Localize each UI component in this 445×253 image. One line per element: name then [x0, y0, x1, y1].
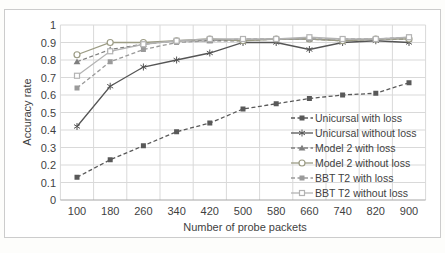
chart-frame-border [5, 10, 441, 238]
open-square-marker [407, 35, 412, 40]
x-tick-label: 660 [300, 205, 318, 217]
x-tick-label: 820 [367, 205, 385, 217]
x-tick-label: 580 [267, 205, 285, 217]
square-marker [141, 47, 146, 52]
y-tick-label: 0.9 [41, 37, 56, 49]
square-marker [307, 96, 312, 101]
legend-label: Model 2 without loss [315, 157, 410, 169]
x-tick-label: 900 [400, 205, 418, 217]
square-marker [300, 116, 305, 121]
open-square-marker [274, 37, 279, 42]
x-tick-label: 340 [167, 205, 185, 217]
open-circle-marker [299, 160, 305, 166]
open-square-marker [108, 49, 113, 54]
square-marker [108, 59, 113, 64]
x-tick-label: 420 [201, 205, 219, 217]
legend-label: Model 2 with loss [315, 142, 396, 154]
open-square-marker [75, 73, 80, 78]
square-marker [174, 129, 179, 134]
open-square-marker [340, 37, 345, 42]
square-marker [75, 175, 80, 180]
open-circle-marker [107, 40, 113, 46]
open-square-marker [174, 38, 179, 43]
y-tick-label: 0.2 [41, 159, 56, 171]
y-tick-label: 0.1 [41, 177, 56, 189]
legend-label: BBT T2 without loss [315, 187, 408, 199]
x-tick-label: 500 [234, 205, 252, 217]
square-marker [300, 176, 305, 181]
x-tick-label: 100 [68, 205, 86, 217]
open-square-marker [207, 37, 212, 42]
y-tick-label: 0.4 [41, 124, 56, 136]
y-tick-label: 0.5 [41, 107, 56, 119]
square-marker [340, 93, 345, 98]
chart-screenshot: 00.10.20.30.40.50.60.70.80.9110018026034… [0, 0, 445, 253]
legend-label: Unicursal with loss [315, 112, 402, 124]
y-axis-title: Accuracy rate [21, 62, 33, 162]
y-tick-label: 1 [50, 19, 56, 31]
x-tick-label: 740 [333, 205, 351, 217]
square-marker [141, 143, 146, 148]
y-tick-label: 0 [50, 194, 56, 206]
open-square-marker [307, 35, 312, 40]
x-tick-label: 180 [101, 205, 119, 217]
square-marker [241, 107, 246, 112]
y-tick-label: 0.6 [41, 89, 56, 101]
y-tick-label: 0.3 [41, 142, 56, 154]
legend-label: Unicursal without loss [315, 127, 417, 139]
x-axis-title: Number of probe packets [110, 221, 380, 233]
legend-label: BBT T2 with loss [315, 172, 393, 184]
x-tick-label: 260 [134, 205, 152, 217]
accuracy-line-chart: 00.10.20.30.40.50.60.70.80.9110018026034… [0, 0, 445, 253]
square-marker [75, 86, 80, 91]
open-square-marker [300, 191, 305, 196]
y-tick-label: 0.7 [41, 72, 56, 84]
square-marker [407, 80, 412, 85]
open-square-marker [141, 42, 146, 47]
square-marker [207, 121, 212, 126]
open-square-marker [373, 37, 378, 42]
square-marker [274, 101, 279, 106]
square-marker [108, 157, 113, 162]
open-circle-marker [74, 52, 80, 58]
y-tick-label: 0.8 [41, 54, 56, 66]
square-marker [373, 91, 378, 96]
open-square-marker [241, 37, 246, 42]
